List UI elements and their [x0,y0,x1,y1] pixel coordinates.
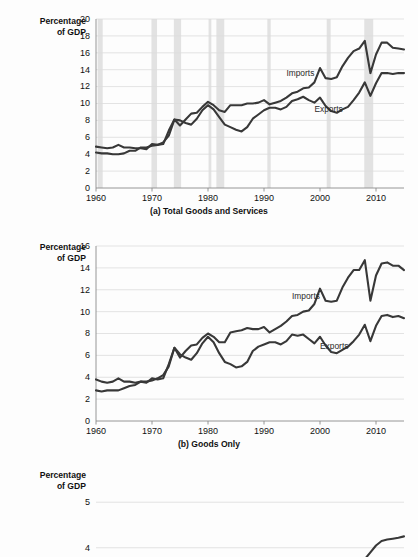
y-axis-tick-label: 10 [80,307,90,317]
chart-caption-a: (a) Total Goods and Services [0,206,418,216]
y-axis-tick-label: 6 [85,350,90,360]
y-axis-tick-label: 0 [85,183,90,193]
chart-panel-a: Percentage of GDP 0246810121416182019601… [0,0,418,222]
y-axis-tick-label: 6 [85,132,90,142]
y-axis-tick-label: 5 [85,497,90,507]
y-axis-tick-label: 14 [80,263,90,273]
y-axis-tick-label: 4 [85,149,90,159]
y-axis-tick-label: 16 [80,48,90,58]
series-annotation-imports: Imports [286,68,314,78]
x-axis-tick-label: 1990 [254,193,274,203]
chart-svg-b: 0246810121416196019701980199020002010Imp… [0,228,418,433]
y-axis-tick-label: 8 [85,328,90,338]
x-axis-tick-label: 2010 [366,193,386,203]
x-axis-tick-label: 1980 [198,193,218,203]
x-axis-tick-label: 1970 [142,426,162,436]
y-axis-tick-label: 20 [80,14,90,24]
y-axis-tick-label: 8 [85,115,90,125]
x-axis-tick-label: 1970 [142,193,162,203]
series-line-unnamed [342,536,404,557]
y-axis-tick-label: 16 [80,241,90,251]
y-axis-tick-label: 10 [80,98,90,108]
x-axis-tick-label: 2010 [366,426,386,436]
x-axis-tick-label: 1980 [198,426,218,436]
y-axis-tick-label: 2 [85,166,90,176]
y-axis-tick-label: 12 [80,81,90,91]
y-axis-tick-label: 4 [85,372,90,382]
chart-svg-a: 0246810121416182019601970198019902000201… [0,0,418,205]
series-line-exports [96,315,404,383]
series-line-exports [96,73,404,149]
x-axis-tick-label: 2000 [310,193,330,203]
x-axis-tick-label: 1990 [254,426,274,436]
x-axis-tick-label: 1960 [86,426,106,436]
plot-area-b: 0246810121416196019701980199020002010Imp… [0,228,418,433]
chart-panel-b: Percentage of GDP 0246810121416196019701… [0,228,418,460]
y-axis-tick-label: 12 [80,285,90,295]
plot-area-a: 0246810121416182019601970198019902000201… [0,0,418,205]
series-line-imports [96,260,404,391]
series-annotation-imports: Imports [292,291,320,301]
series-annotation-exports: Exports [320,341,348,351]
x-axis-tick-label: 1960 [86,193,106,203]
x-axis-tick-label: 2000 [310,426,330,436]
y-axis-tick-label: 14 [80,65,90,75]
plot-area-c: 54 [0,466,418,557]
y-axis-tick-label: 0 [85,416,90,426]
y-axis-tick-label: 2 [85,394,90,404]
chart-caption-b: (b) Goods Only [0,439,418,449]
chart-panel-c: Percentage of GDP 54 [0,466,418,557]
chart-svg-c: 54 [0,466,418,557]
y-axis-tick-label: 4 [85,543,90,553]
series-annotation-exports: Exports [314,104,342,114]
y-axis-tick-label: 18 [80,31,90,41]
